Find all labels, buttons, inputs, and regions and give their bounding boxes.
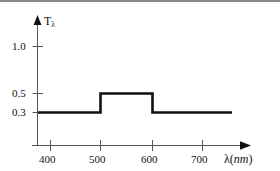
x-axis-unit-close: ) bbox=[249, 152, 253, 166]
x-axis-arrow-icon bbox=[240, 141, 251, 149]
x-tick-label-700: 700 bbox=[191, 154, 208, 165]
y-tick-label-0.3: 0.3 bbox=[12, 107, 26, 118]
transmittance-step-curve bbox=[38, 94, 232, 113]
transmittance-plot bbox=[0, 0, 280, 171]
y-axis-label: Tλ bbox=[44, 15, 55, 29]
y-axis-arrow-icon bbox=[34, 15, 42, 25]
x-tick-label-600: 600 bbox=[141, 154, 158, 165]
x-tick-label-400: 400 bbox=[39, 154, 56, 165]
x-tick-label-500: 500 bbox=[89, 154, 106, 165]
y-tick-label-1.0: 1.0 bbox=[12, 41, 26, 52]
chart-screenshot: 1.0 0.5 0.3 400 500 600 700 Tλ λ(nm) bbox=[0, 0, 280, 171]
y-tick-label-0.5: 0.5 bbox=[12, 88, 26, 99]
x-axis-label: λ(nm) bbox=[224, 153, 253, 165]
y-axis-subscript: λ bbox=[51, 20, 55, 29]
x-axis-unit: nm bbox=[234, 152, 249, 166]
